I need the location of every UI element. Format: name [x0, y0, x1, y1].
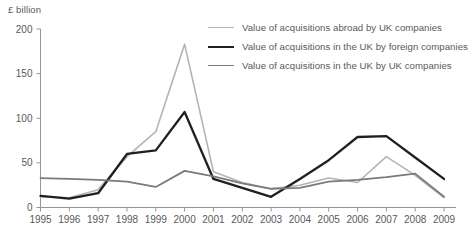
chart-legend: Value of acquisitions abroad by UK compa…: [208, 18, 468, 75]
legend-item-uk-by-foreign: Value of acquisitions in the UK by forei…: [208, 37, 468, 56]
legend-label: Value of acquisitions in the UK by forei…: [242, 41, 468, 52]
x-tick-label: 2001: [202, 214, 225, 225]
legend-swatch-line-icon: [208, 65, 234, 66]
x-tick-label: 1999: [145, 214, 168, 225]
x-tick-label: 1995: [29, 214, 52, 225]
y-tick-label: 150: [16, 68, 33, 79]
x-tick-label: 1996: [58, 214, 81, 225]
y-tick-label: 200: [16, 24, 33, 35]
y-tick-label: 0: [27, 202, 33, 213]
x-tick-label: 2003: [260, 214, 283, 225]
x-tick-label: 2008: [404, 214, 427, 225]
y-tick-label: 100: [16, 113, 33, 124]
y-axis: 050100150200: [16, 24, 41, 214]
legend-item-abroad-by-uk: Value of acquisitions abroad by UK compa…: [208, 18, 468, 37]
legend-item-uk-by-uk: Value of acquisitions in the UK by UK co…: [208, 56, 468, 75]
legend-label: Value of acquisitions abroad by UK compa…: [242, 22, 442, 33]
x-tick-label: 2007: [375, 214, 398, 225]
x-tick-label: 2009: [433, 214, 456, 225]
x-axis: 1995199619971998199920002001200220032004…: [29, 208, 456, 225]
series-line-2: [41, 171, 445, 197]
x-tick-label: 1997: [87, 214, 110, 225]
x-tick-label: 2000: [173, 214, 196, 225]
y-tick-label: 50: [21, 157, 33, 168]
legend-swatch-line-icon: [208, 46, 234, 48]
x-tick-label: 2002: [231, 214, 254, 225]
legend-label: Value of acquisitions in the UK by UK co…: [242, 60, 452, 71]
x-tick-label: 2006: [346, 214, 369, 225]
x-tick-label: 2005: [318, 214, 341, 225]
x-tick-label: 2004: [289, 214, 312, 225]
legend-swatch-line-icon: [208, 27, 234, 28]
x-tick-label: 1998: [116, 214, 139, 225]
